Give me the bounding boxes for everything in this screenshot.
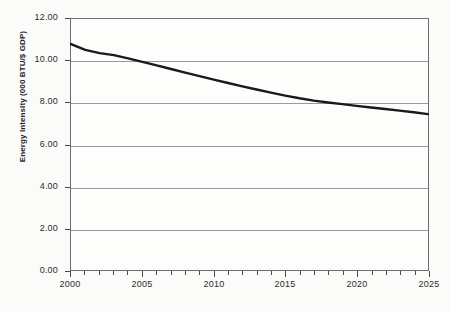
x-axis: 200020052010201520202025: [70, 271, 429, 301]
x-tick-label-2000: 2000: [50, 279, 90, 289]
x-tick-label-2020: 2020: [337, 279, 377, 289]
x-tick-mark-2022: [386, 271, 387, 275]
series-layer: [71, 19, 428, 270]
y-tick-label-4: 4.00: [0, 181, 58, 191]
x-tick-label-2005: 2005: [122, 279, 162, 289]
y-tick-label-2: 2.00: [0, 223, 58, 233]
x-tick-label-2010: 2010: [194, 279, 234, 289]
y-tick-label-0: 0.00: [0, 265, 58, 275]
x-tick-mark-2007: [171, 271, 172, 275]
y-axis: Energy Intensity (000 BTU/$ GDP) 0.002.0…: [0, 0, 70, 312]
energy-intensity-chart: Energy Intensity (000 BTU/$ GDP) 0.002.0…: [0, 0, 451, 312]
x-tick-mark-2015: [285, 271, 286, 277]
y-tick-label-6: 6.00: [0, 139, 58, 149]
x-tick-mark-2000: [70, 271, 71, 277]
x-tick-mark-2021: [372, 271, 373, 275]
plot-area: [70, 18, 429, 271]
x-tick-mark-2020: [357, 271, 358, 277]
x-tick-mark-2012: [242, 271, 243, 275]
x-tick-label-2015: 2015: [265, 279, 305, 289]
x-tick-mark-2016: [300, 271, 301, 275]
x-tick-mark-2001: [84, 271, 85, 275]
x-tick-mark-2013: [257, 271, 258, 275]
x-tick-mark-2014: [271, 271, 272, 275]
x-tick-mark-2004: [127, 271, 128, 275]
x-tick-mark-2023: [400, 271, 401, 275]
x-tick-mark-2008: [185, 271, 186, 275]
x-tick-mark-2024: [415, 271, 416, 275]
y-tick-label-12: 12.00: [0, 12, 58, 22]
x-tick-mark-2003: [113, 271, 114, 275]
x-tick-mark-2009: [199, 271, 200, 275]
x-tick-mark-2011: [228, 271, 229, 275]
series-line-energy-intensity: [71, 44, 428, 114]
x-tick-label-2025: 2025: [409, 279, 449, 289]
x-tick-mark-2025: [429, 271, 430, 277]
x-tick-mark-2010: [214, 271, 215, 277]
x-tick-mark-2005: [142, 271, 143, 277]
x-tick-mark-2019: [343, 271, 344, 275]
x-tick-mark-2017: [314, 271, 315, 275]
x-tick-mark-2018: [328, 271, 329, 275]
x-tick-mark-2002: [99, 271, 100, 275]
x-tick-mark-2006: [156, 271, 157, 275]
y-tick-label-10: 10.00: [0, 54, 58, 64]
y-tick-label-8: 8.00: [0, 96, 58, 106]
